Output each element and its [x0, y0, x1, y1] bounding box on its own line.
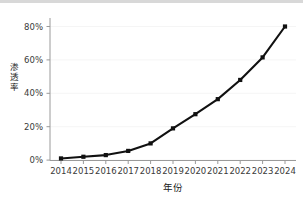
series-line-path — [61, 27, 285, 159]
data-point-2016 — [104, 153, 108, 157]
x-tick-label-2022: 2022 — [229, 166, 251, 176]
y-tick-label-0: 0% — [30, 155, 44, 165]
x-tick-label-2014: 2014 — [50, 166, 72, 176]
data-point-2017 — [126, 149, 130, 153]
gridlines — [50, 27, 296, 161]
y-tick-label-80: 80% — [24, 22, 43, 32]
line-chart-canvas: 80% 60% 40% 20% 0% 2014 2015 2016 2017 2… — [0, 0, 303, 198]
data-point-2020 — [193, 112, 197, 116]
y-tick-label-20: 20% — [24, 122, 43, 132]
data-point-2015 — [81, 155, 85, 159]
x-tick-label-2019: 2019 — [162, 166, 184, 176]
x-tick-label-2017: 2017 — [117, 166, 139, 176]
x-tick-label-2023: 2023 — [252, 166, 274, 176]
chart-figure: 80% 60% 40% 20% 0% 2014 2015 2016 2017 2… — [0, 0, 303, 198]
x-tick-label-2016: 2016 — [95, 166, 117, 176]
data-point-2014 — [59, 156, 63, 160]
x-tick-label-2021: 2021 — [207, 166, 229, 176]
x-tick-marks — [61, 161, 285, 165]
data-point-2018 — [149, 141, 153, 145]
y-axis-title-char-2: 透 — [10, 72, 19, 82]
y-tick-label-40: 40% — [24, 88, 43, 98]
data-point-2022 — [238, 78, 242, 82]
data-point-2021 — [216, 97, 220, 101]
data-point-2023 — [261, 55, 265, 59]
x-tick-labels: 2014 2015 2016 2017 2018 2019 2020 2021 … — [50, 166, 296, 176]
series-markers — [59, 24, 287, 160]
x-axis-title: 年份 — [163, 182, 183, 193]
y-tick-label-60: 60% — [24, 55, 43, 65]
y-axis-title: 渗 透 率 — [10, 62, 19, 92]
y-tick-marks — [47, 27, 51, 161]
data-point-2024 — [283, 24, 287, 28]
data-series-penetration-rate — [59, 24, 287, 160]
y-axis-title-char-1: 渗 — [10, 62, 19, 72]
y-axis-title-char-3: 率 — [10, 82, 19, 92]
x-tick-label-2020: 2020 — [185, 166, 207, 176]
x-tick-label-2015: 2015 — [73, 166, 95, 176]
y-tick-labels: 80% 60% 40% 20% 0% — [24, 22, 43, 166]
data-point-2019 — [171, 126, 175, 130]
x-tick-label-2024: 2024 — [274, 166, 296, 176]
x-tick-label-2018: 2018 — [140, 166, 162, 176]
